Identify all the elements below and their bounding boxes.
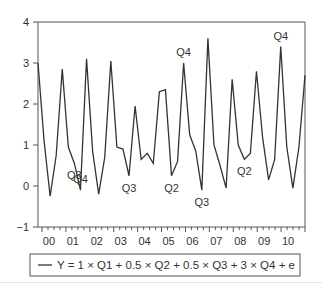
- y-tick-label: 3: [23, 57, 29, 69]
- y-tick-label: 4: [23, 16, 29, 28]
- x-tick-label: 09: [258, 235, 270, 247]
- annotation-label: Q2: [164, 182, 179, 194]
- y-tick-label: 2: [23, 98, 29, 110]
- x-tick-label: 07: [210, 235, 222, 247]
- annotation-label: Q4: [176, 46, 191, 58]
- divider: [0, 282, 322, 283]
- x-tick-label: 02: [91, 235, 103, 247]
- line-chart: −101234 0001020304050607080910 Q4Q3Q3Q2Q…: [0, 0, 322, 288]
- x-tick-label: 00: [43, 235, 55, 247]
- x-tick-label: 01: [67, 235, 79, 247]
- annotation-label: Q2: [237, 165, 252, 177]
- axes: [38, 22, 305, 227]
- y-axis-ticks: −101234: [16, 16, 38, 233]
- y-tick-label: 0: [23, 180, 29, 192]
- annotation-label: Q3: [67, 169, 82, 181]
- y-tick-label: 1: [23, 139, 29, 151]
- annotation-label: Q3: [194, 196, 209, 208]
- x-tick-label: 08: [234, 235, 246, 247]
- y-tick-label: −1: [16, 221, 29, 233]
- annotation-label: Q4: [273, 30, 288, 42]
- x-tick-label: 06: [186, 235, 198, 247]
- x-tick-label: 04: [138, 235, 150, 247]
- x-axis-ticks: 0001020304050607080910: [42, 227, 305, 247]
- x-tick-label: 10: [282, 235, 294, 247]
- x-tick-label: 05: [162, 235, 174, 247]
- annotation-label: Q3: [122, 182, 137, 194]
- legend: Y = 1 × Q1 + 0.5 × Q2 + 0.5 × Q3 + 3 × Q…: [30, 254, 300, 276]
- legend-label: Y = 1 × Q1 + 0.5 × Q2 + 0.5 × Q3 + 3 × Q…: [57, 259, 295, 271]
- x-tick-label: 03: [115, 235, 127, 247]
